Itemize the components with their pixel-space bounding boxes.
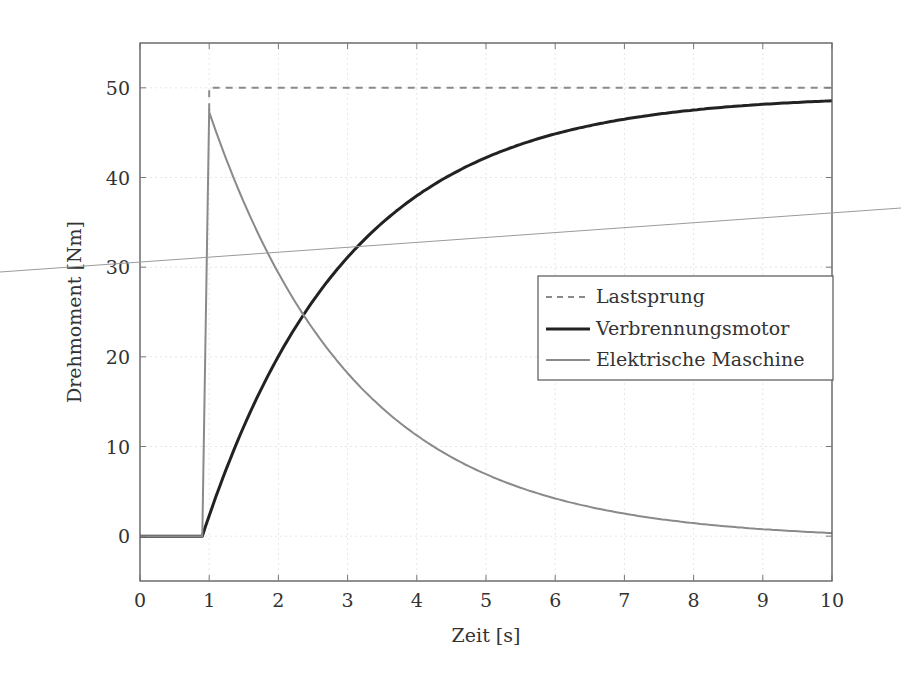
- y-tick-label: 10: [106, 436, 130, 458]
- y-tick-label: 0: [118, 525, 130, 547]
- x-tick-label: 9: [757, 589, 769, 611]
- legend-item-verbrennungsmotor: Verbrennungsmotor: [595, 317, 790, 339]
- legend-item-lastsprung: Lastsprung: [596, 285, 705, 307]
- x-tick-label: 10: [820, 589, 844, 611]
- x-tick-label: 5: [480, 589, 492, 611]
- legend: Lastsprung Verbrennungsmotor Elektrische…: [538, 276, 833, 380]
- legend-item-elektrische-maschine: Elektrische Maschine: [596, 348, 804, 370]
- y-tick-label: 40: [106, 167, 130, 189]
- scan-artifact-line: [0, 208, 901, 272]
- x-tick-label: 6: [549, 589, 561, 611]
- x-tick-label: 7: [618, 589, 630, 611]
- y-tick-label: 50: [106, 77, 130, 99]
- y-tick-label: 20: [106, 346, 130, 368]
- x-tick-label: 2: [272, 589, 284, 611]
- x-tick-label: 4: [411, 589, 423, 611]
- x-tick-label: 0: [134, 589, 146, 611]
- y-tick-label: 30: [106, 256, 130, 278]
- x-tick-label: 1: [203, 589, 215, 611]
- y-axis-title: Drehmoment [Nm]: [63, 221, 85, 403]
- chart-canvas: 01234567891001020304050 Zeit [s] Drehmom…: [0, 0, 901, 691]
- x-axis-title: Zeit [s]: [452, 624, 521, 646]
- x-tick-label: 8: [688, 589, 700, 611]
- x-tick-label: 3: [342, 589, 354, 611]
